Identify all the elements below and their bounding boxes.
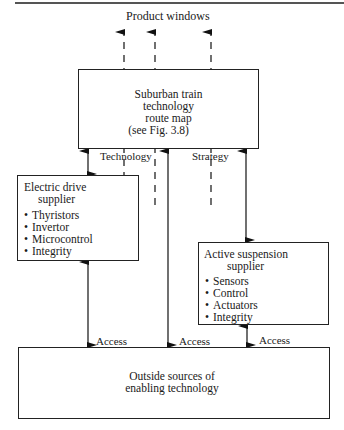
outside-sources-box: Outside sources of enabling technology <box>18 347 330 419</box>
electric-drive-items: Thyristors Invertor Microcontrol Integri… <box>24 209 93 257</box>
active-suspension-item: Sensors <box>205 275 258 287</box>
active-suspension-items: Sensors Control Actuators Integrity <box>205 275 258 323</box>
route-map-line-3: route map <box>79 112 258 124</box>
electric-drive-item: Thyristors <box>24 209 93 221</box>
electric-drive-title-1: Electric drive <box>24 181 86 193</box>
active-suspension-supplier-box: Active suspension supplier Sensors Contr… <box>198 242 329 325</box>
strategy-label: Strategy <box>192 150 229 162</box>
outside-sources-line-2: enabling technology <box>15 382 329 394</box>
electric-drive-item: Integrity <box>24 245 93 257</box>
electric-drive-supplier-box: Electric drive supplier Thyristors Inver… <box>17 175 139 261</box>
electric-drive-title-2: supplier <box>38 193 75 205</box>
access-label-middle: Access <box>179 335 210 347</box>
active-suspension-item: Integrity <box>205 311 258 323</box>
electric-drive-item: Invertor <box>24 221 93 233</box>
product-windows-label: Product windows <box>126 10 210 22</box>
outside-sources-line-1: Outside sources of <box>15 370 329 382</box>
active-suspension-title-2: supplier <box>227 260 264 272</box>
electric-drive-item: Microcontrol <box>24 233 93 245</box>
route-map-box: Suburban train technology route map (see… <box>78 69 259 149</box>
route-map-line-2: technology <box>79 100 258 112</box>
route-map-line-4: (see Fig. 3.8) <box>59 124 258 136</box>
active-suspension-title-1: Active suspension <box>204 248 288 260</box>
technology-label: Technology <box>100 150 152 162</box>
active-suspension-item: Actuators <box>205 299 258 311</box>
active-suspension-item: Control <box>205 287 258 299</box>
access-label-left: Access <box>96 335 127 347</box>
route-map-line-1: Suburban train <box>79 88 258 100</box>
access-label-right: Access <box>259 334 290 346</box>
